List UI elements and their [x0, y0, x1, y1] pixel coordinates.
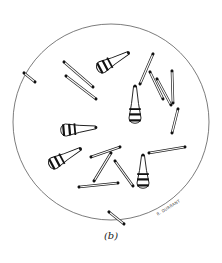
bacterial-rod: [171, 70, 175, 105]
bacterial-rod: [78, 182, 120, 189]
microscope-field-illustration: [0, 0, 222, 263]
bacterial-rod: [148, 146, 187, 155]
bacterial-rod: [108, 211, 126, 226]
bacterial-rod: [23, 72, 37, 84]
bacterial-rod: [149, 71, 165, 101]
bacterial-rod: [139, 53, 155, 86]
bacterial-rod: [156, 78, 173, 107]
spore-cell: [60, 121, 98, 136]
spore-cell: [47, 143, 85, 171]
spore-cell: [129, 85, 141, 124]
spore-forming-cells: [47, 47, 149, 188]
bacterial-rod: [90, 146, 122, 159]
spore-cell: [137, 154, 149, 189]
bacterial-rod: [171, 108, 180, 135]
bacterial-rods: [23, 53, 187, 226]
spore-cell: [95, 47, 133, 75]
microscope-field-circle: [13, 24, 209, 220]
figure-caption: (b): [0, 230, 222, 241]
